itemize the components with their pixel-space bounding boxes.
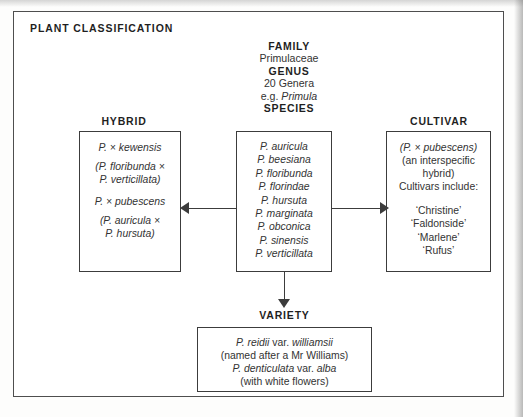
cultivar-includes-label: Cultivars include: [387,180,490,193]
column-heading-variety: VARIETY [197,309,372,321]
hybrid-entry-name: P. × kewensis [80,141,180,154]
arrow-left-icon [180,202,189,214]
species-list-item: P. auricula [237,140,331,153]
species-list-item: P. hursuta [237,194,331,207]
species-list-item: P. floribunda [237,167,331,180]
hybrid-box: P. × kewensis (P. floribunda × P. vertic… [79,131,181,272]
variety-2-species: P. denticulata [233,363,295,374]
species-list-item: P. verticillata [237,247,331,260]
cultivar-list-item: ‘Christine’ [387,204,490,217]
connector-species-to-cultivar-line [332,208,381,209]
rank-hierarchy-stack: FAMILY Primulaceae GENUS 20 Genera e.g. … [219,40,359,114]
species-list-item: P. florindae [237,180,331,193]
species-box: P. auriculaP. beesianaP. floribundaP. fl… [236,131,332,272]
scanned-page: PLANT CLASSIFICATION FAMILY Primulaceae … [0,0,523,417]
cultivar-list-item: ‘Rufus’ [387,244,490,257]
genus-example-prefix: e.g. [261,90,282,102]
cultivar-box: (P. × pubescens) (an interspecific hybri… [386,131,491,272]
variety-box-content: P. reidii var. williamsii (named after a… [198,336,371,388]
variety-1-species: P. reidii [236,337,269,348]
hybrid-entry-name: P. × pubescens [80,195,180,208]
rank-label-family: FAMILY [219,40,359,52]
spacer [387,193,490,204]
hybrid-entry: P. × kewensis (P. floribunda × P. vertic… [80,141,180,186]
variety-1-epithet: williamsii [292,337,333,348]
variety-2-note: (with white flowers) [198,375,371,388]
column-heading-hybrid: HYBRID [62,115,186,127]
variety-1-var-label: var. [269,337,292,348]
species-list-item: P. marginata [237,207,331,220]
cultivar-note-line-2: hybrid) [387,167,490,180]
variety-box: P. reidii var. williamsii (named after a… [197,327,372,392]
rank-label-species: SPECIES [219,102,359,114]
cultivar-box-content: (P. × pubescens) (an interspecific hybri… [387,141,490,257]
scan-shadow-bottom [0,411,523,417]
cultivar-list-item: ‘Marlene’ [387,231,490,244]
hybrid-entry-parent-b: P. verticillata) [80,173,180,186]
variety-1-note: (named after a Mr Williams) [198,349,371,362]
page-title: PLANT CLASSIFICATION [30,22,173,34]
cultivar-name-list: ‘Christine’‘Faldonside’‘Marlene’‘Rufus’ [387,204,490,256]
hybrid-entry: P. × pubescens (P. auricula × P. hursuta… [80,195,180,240]
species-list: P. auriculaP. beesianaP. floribundaP. fl… [237,140,331,261]
rank-value-genus-example: e.g. Primula [219,90,359,102]
rank-value-family: Primulaceae [219,52,359,64]
species-list-item: P. sinensis [237,234,331,247]
connector-species-to-variety-line [284,272,285,300]
species-list-item: P. beesiana [237,153,331,166]
hybrid-entry-parent-b: P. hursuta) [80,227,180,240]
arrow-down-icon [278,299,290,308]
hybrid-box-content: P. × kewensis (P. floribunda × P. vertic… [80,141,180,241]
hybrid-entry-parent-a: (P. floribunda × [80,160,180,173]
diagram-frame: PLANT CLASSIFICATION FAMILY Primulaceae … [13,11,504,397]
variety-2-var-label: var. [294,363,317,374]
connector-species-to-hybrid-line [187,208,236,209]
variety-entry-1: P. reidii var. williamsii [198,336,371,349]
species-list-item: P. obconica [237,220,331,233]
cultivar-note-line-1: (an interspecific [387,154,490,167]
scan-shadow-right [514,0,523,417]
hybrid-entry-parent-a: (P. auricula × [80,214,180,227]
variety-entry-2: P. denticulata var. alba [198,362,371,375]
variety-2-epithet: alba [317,363,337,374]
rank-value-genus-count: 20 Genera [219,77,359,89]
column-heading-cultivar: CULTIVAR [372,115,506,127]
genus-example-name: Primula [281,90,317,102]
cultivar-parent-hybrid: (P. × pubescens) [387,141,490,154]
scan-shadow-top [0,0,523,7]
rank-label-genus: GENUS [219,65,359,77]
arrow-right-icon [380,202,389,214]
cultivar-list-item: ‘Faldonside’ [387,217,490,230]
